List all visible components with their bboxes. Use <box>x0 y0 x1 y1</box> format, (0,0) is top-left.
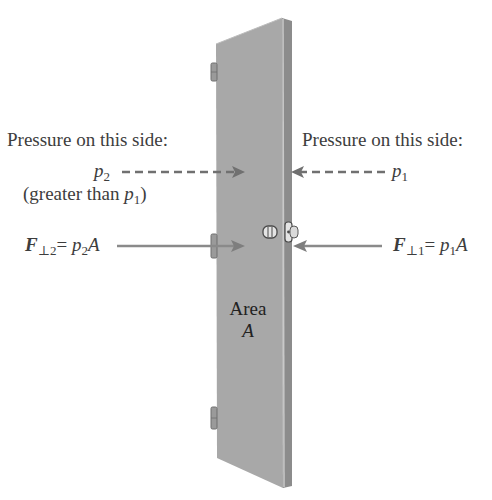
note-prefix: (greater than <box>23 183 124 204</box>
force-equals: = <box>424 234 439 255</box>
force-equals: = <box>56 234 71 255</box>
pressure-arrow-right <box>291 166 385 178</box>
pressure-symbol: p <box>392 160 402 181</box>
pressure-symbol: p <box>94 160 104 181</box>
note-suffix: ) <box>140 183 146 204</box>
area-symbol: A <box>222 320 274 342</box>
right-pressure-symbol: p1 <box>392 160 408 182</box>
area-word: Area <box>222 298 274 320</box>
right-force-equation: F⊥1= p1A <box>393 234 468 256</box>
force-symbol: F <box>393 234 406 255</box>
pressure-subscript: 2 <box>104 169 111 184</box>
force-rhs-area: A <box>456 234 468 255</box>
left-force-equation: F⊥2= p2A <box>25 234 100 256</box>
hinge-icon <box>211 63 217 81</box>
note-symbol: p <box>124 183 134 204</box>
left-pressure-symbol: p2 <box>94 160 110 182</box>
force-rhs-symbol: p <box>72 234 82 255</box>
force-subscript: ⊥2 <box>38 243 57 258</box>
door-edge-highlight <box>283 19 284 487</box>
door-area-label: Area A <box>222 298 274 342</box>
force-rhs-symbol: p <box>440 234 450 255</box>
pressure-subscript: 1 <box>402 169 409 184</box>
force-subscript: ⊥1 <box>406 243 425 258</box>
right-pressure-heading: Pressure on this side: <box>302 129 463 151</box>
pressure-door-diagram: Pressure on this side: p2 (greater than … <box>0 0 492 500</box>
door-face <box>216 18 283 488</box>
force-arrow-right <box>293 240 382 252</box>
force-symbol: F <box>25 234 38 255</box>
hinge-icon <box>211 407 217 429</box>
left-pressure-note: (greater than p1) <box>23 183 147 205</box>
force-rhs-area: A <box>88 234 100 255</box>
left-pressure-heading: Pressure on this side: <box>7 129 168 151</box>
